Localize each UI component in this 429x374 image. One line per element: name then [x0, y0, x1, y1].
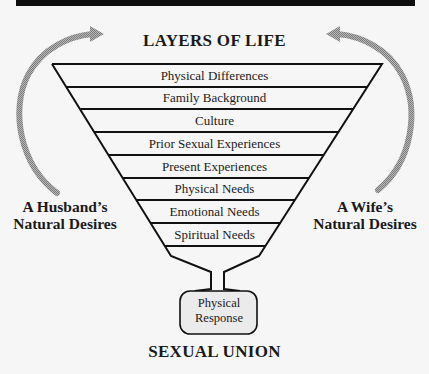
diagram-page: LAYERS OF LIFE Physical Differences Fami… [0, 0, 429, 374]
physical-response-box: Physical Response [180, 296, 258, 326]
layer-physical-differences: Physical Differences [0, 65, 429, 87]
wife-label-line2: Natural Desires [300, 215, 429, 232]
layer-physical-needs: Physical Needs [0, 178, 429, 200]
husband-label-line1: A Husband’s [0, 198, 130, 215]
title-layers-of-life: LAYERS OF LIFE [0, 31, 429, 51]
layer-present-experiences: Present Experiences [0, 156, 429, 178]
husband-desires-label: A Husband’s Natural Desires [0, 198, 130, 232]
response-line1: Physical [180, 296, 258, 311]
wife-desires-label: A Wife’s Natural Desires [300, 198, 429, 232]
layer-culture: Culture [0, 110, 429, 132]
layer-family-background: Family Background [0, 87, 429, 109]
husband-label-line2: Natural Desires [0, 215, 130, 232]
title-sexual-union: SEXUAL UNION [0, 342, 429, 362]
response-line2: Response [180, 311, 258, 326]
layer-prior-sexual-experiences: Prior Sexual Experiences [0, 133, 429, 155]
wife-label-line1: A Wife’s [300, 198, 429, 215]
